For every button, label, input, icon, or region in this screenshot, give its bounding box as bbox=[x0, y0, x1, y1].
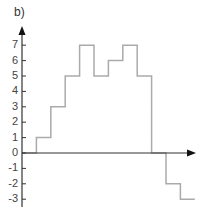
axes bbox=[19, 26, 197, 207]
y-tick-label: 7 bbox=[0, 39, 18, 50]
y-tick-label: 4 bbox=[0, 85, 18, 96]
y-tick-label: 1 bbox=[0, 132, 18, 143]
series-path bbox=[22, 45, 195, 199]
y-tick-label: 6 bbox=[0, 55, 18, 66]
y-tick-label: -1 bbox=[0, 162, 18, 173]
y-tick-label: 0 bbox=[0, 147, 18, 158]
y-tick-label: 5 bbox=[0, 70, 18, 81]
y-tick-label: -3 bbox=[0, 193, 18, 204]
step-chart bbox=[0, 0, 206, 219]
x-axis-arrow-icon bbox=[187, 150, 196, 157]
y-tick-label: 2 bbox=[0, 116, 18, 127]
y-tick-label: 3 bbox=[0, 101, 18, 112]
step-series-line bbox=[22, 45, 195, 199]
y-axis-arrow-icon bbox=[19, 26, 26, 35]
y-tick-label: -2 bbox=[0, 178, 18, 189]
